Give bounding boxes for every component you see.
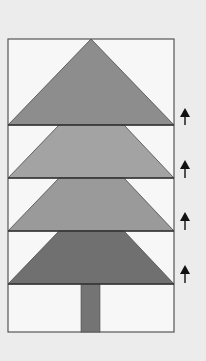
tree-trunk bbox=[81, 284, 100, 332]
up-arrow-icon bbox=[180, 212, 190, 230]
up-arrow-icon bbox=[180, 160, 190, 178]
up-arrow-icon bbox=[180, 108, 190, 125]
pine-tree-diagram bbox=[0, 0, 206, 361]
up-arrow-icon bbox=[180, 265, 190, 283]
